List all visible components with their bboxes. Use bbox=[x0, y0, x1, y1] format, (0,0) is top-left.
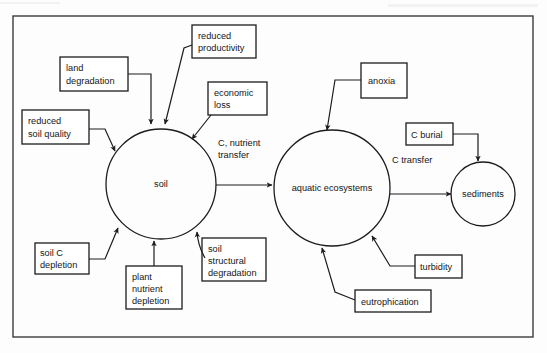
edge-label-c-transfer: C transfer bbox=[392, 155, 432, 165]
scan-artifact bbox=[388, 4, 538, 7]
connector-land-degradation-to-soil bbox=[128, 74, 151, 124]
box-reduced-productivity-line2: productivity bbox=[198, 43, 245, 53]
connector-reduced-productivity-to-soil bbox=[165, 45, 192, 124]
box-plant-nutrient-depletion-line2: nutrient bbox=[132, 284, 163, 294]
box-economic-loss-line1: economic bbox=[214, 88, 254, 98]
box-soil-c-depletion-line1: soil C bbox=[40, 248, 63, 258]
box-reduced-soil-quality-line2: soil quality bbox=[28, 129, 71, 139]
box-soil-c-depletion-line2: depletion bbox=[40, 260, 77, 270]
box-reduced-soil-quality-line1: reduced bbox=[28, 116, 61, 126]
box-soil-structural-degradation-line1: soil bbox=[208, 244, 222, 254]
box-turbidity-label: turbidity bbox=[420, 262, 453, 272]
connector-economic-loss-to-soil bbox=[192, 115, 211, 139]
edge-label-c-nutrient-transfer-line2: transfer bbox=[218, 150, 249, 160]
flow-diagram: soil aquatic ecosystems sediments reduce… bbox=[0, 0, 547, 353]
box-soil-structural-degradation-line2: structural bbox=[208, 256, 246, 266]
node-soil-label: soil bbox=[154, 179, 168, 189]
connector-turbidity-to-aquatic-ecosystems bbox=[372, 236, 415, 266]
box-c-burial-label: C burial bbox=[411, 130, 443, 140]
connector-c-burial-to-sediments bbox=[453, 134, 478, 161]
connector-reduced-soil-quality-to-soil bbox=[89, 129, 115, 151]
connector-eutrophication-to-aquatic-ecosystems bbox=[322, 248, 355, 300]
box-anoxia-label: anoxia bbox=[368, 76, 396, 86]
box-reduced-productivity-line1: reduced bbox=[198, 31, 231, 41]
edge-label-c-nutrient-transfer-line1: C, nutrient bbox=[218, 138, 261, 148]
diagram-page: soil aquatic ecosystems sediments reduce… bbox=[0, 0, 547, 353]
node-aquatic-ecosystems-label: aquatic ecosystems bbox=[292, 183, 373, 193]
connector-soil-c-depletion-to-soil bbox=[89, 228, 118, 259]
node-sediments-label: sediments bbox=[462, 189, 504, 199]
box-economic-loss-line2: loss bbox=[214, 100, 231, 110]
box-soil-structural-degradation-line3: degradation bbox=[208, 268, 257, 278]
box-land-degradation-line2: degradation bbox=[66, 76, 115, 86]
scan-artifact bbox=[0, 2, 60, 4]
box-plant-nutrient-depletion-line3: depletion bbox=[132, 296, 169, 306]
box-eutrophication-label: eutrophication bbox=[361, 297, 419, 307]
box-plant-nutrient-depletion-line1: plant bbox=[132, 272, 152, 282]
connector-anoxia-to-aquatic-ecosystems bbox=[327, 80, 361, 130]
box-land-degradation-line1: land bbox=[66, 63, 83, 73]
box-economic-loss bbox=[208, 82, 267, 115]
box-reduced-productivity bbox=[192, 25, 256, 58]
